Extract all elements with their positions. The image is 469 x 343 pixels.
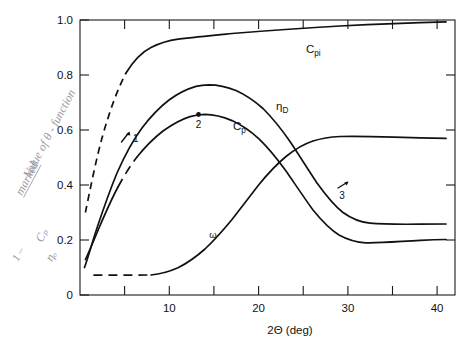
curve-label-eta_D: ηD [276, 100, 288, 115]
curve-label-eta_D-subscript: D [282, 106, 288, 115]
y-axis-tick-labels: 0 0.2 0.4 0.6 0.8 1.0 [57, 14, 74, 301]
annotation-1-label: 1 [133, 133, 139, 144]
annotation-2-dot [196, 112, 201, 117]
handwritten-note-lower-prefix: 1 – [9, 245, 26, 263]
annotation-3-label: 3 [339, 190, 345, 201]
curve-label-C_pi-subscript: pi [314, 49, 321, 58]
curve-label-C_pi-base: C [306, 43, 314, 55]
x-tick-label-40: 40 [431, 302, 444, 314]
curve-label-omega: ω [209, 229, 217, 240]
annotation-2-label: 2 [196, 119, 202, 130]
curve-label-C_p-base: C [233, 120, 241, 132]
curve-label-C_p: Cp [233, 120, 246, 135]
curve-label-C_p-subscript: p [241, 126, 246, 135]
curve-labels: Cpi ηD Cp ω [209, 43, 321, 240]
annotation-3: 3 [338, 182, 349, 201]
handwritten-note-lower-first: Cₚ [32, 225, 51, 244]
series-omega-solid-segment [151, 136, 446, 275]
series-omega [93, 136, 446, 275]
chart-figure: 0 0.2 0.4 0.6 0.8 1.0 [0, 0, 469, 343]
chart-svg: 0 0.2 0.4 0.6 0.8 1.0 [0, 0, 469, 343]
y-tick-label-0-4: 0.4 [57, 179, 74, 191]
series-C_p [85, 114, 446, 259]
series-C_pi-solid-segment [126, 22, 446, 73]
x-axis-title: 2Θ (deg) [267, 324, 313, 336]
y-tick-label-0-8: 0.8 [57, 69, 73, 81]
handwritten-note-lower-second: ηₒ [42, 248, 59, 263]
y-tick-label-0: 0 [67, 289, 73, 301]
y-axis-ticks-right [446, 75, 455, 240]
x-axis-tick-labels: 10 20 30 40 [163, 302, 444, 314]
curve-label-C_pi: Cpi [306, 43, 321, 58]
x-tick-label-20: 20 [252, 302, 265, 314]
x-axis-ticks-bottom [125, 286, 438, 295]
y-tick-label-1-0: 1.0 [57, 14, 73, 26]
y-tick-label-0-2: 0.2 [57, 234, 73, 246]
x-tick-label-30: 30 [342, 302, 355, 314]
series-C_pi-dashed-segment [85, 73, 126, 213]
annotation-2: 2 [196, 112, 202, 130]
series-C_p-dashed-segment [118, 157, 137, 187]
annotation-1: 1 [122, 132, 140, 144]
series-C_p-lower-solid [85, 187, 118, 260]
x-tick-label-10: 10 [163, 302, 176, 314]
series-C_pi [85, 22, 446, 213]
